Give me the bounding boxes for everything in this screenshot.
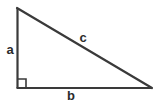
right-angle-marker bbox=[18, 79, 27, 88]
triangle-drawing bbox=[0, 0, 160, 104]
hypotenuse-line-c bbox=[17, 8, 152, 88]
side-label-c: c bbox=[76, 31, 90, 44]
side-label-a: a bbox=[4, 43, 16, 56]
right-triangle-figure: a c b bbox=[0, 0, 160, 104]
side-label-b: b bbox=[64, 89, 78, 102]
